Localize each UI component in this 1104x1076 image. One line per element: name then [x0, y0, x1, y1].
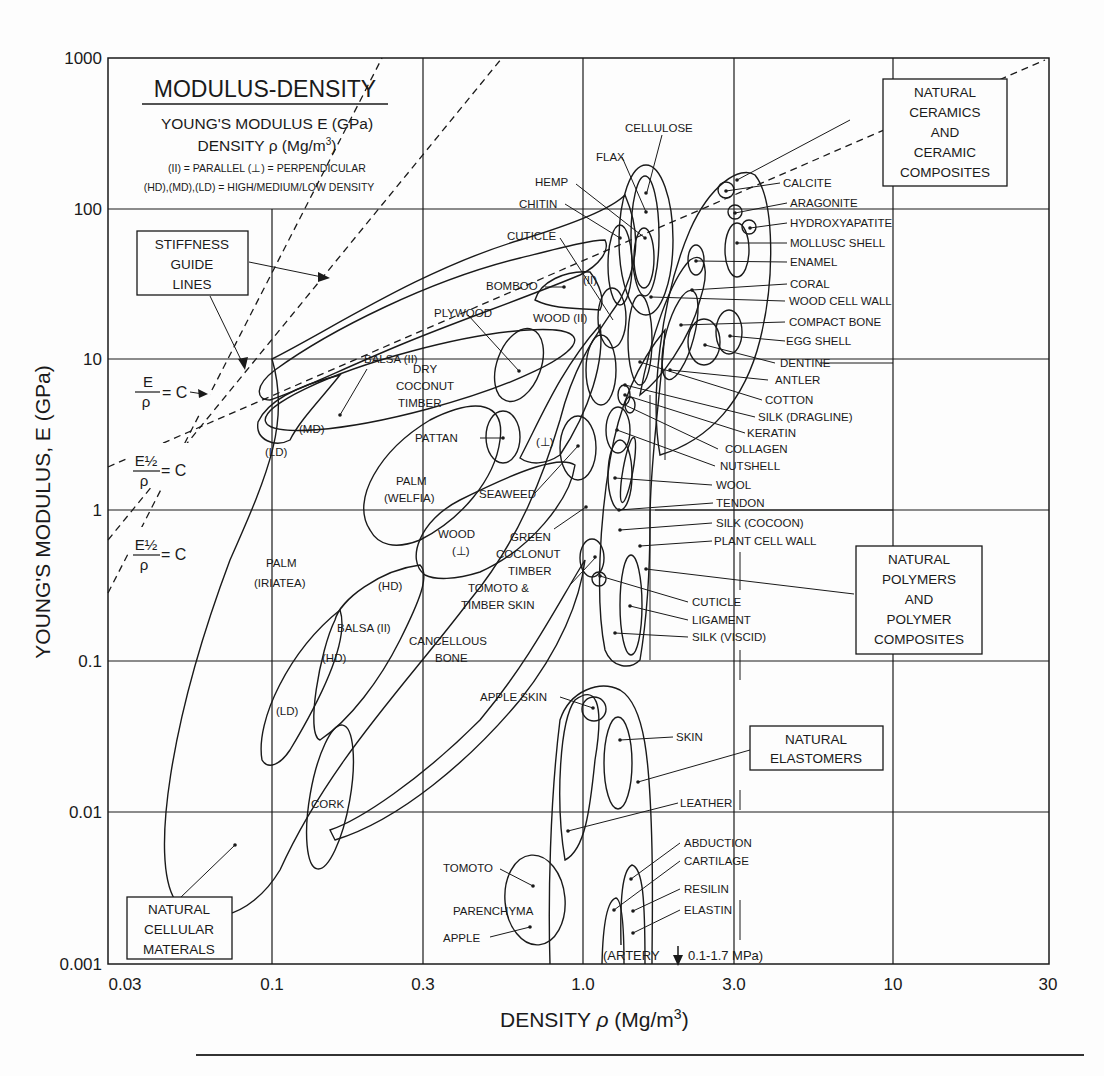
ytick-100: 100	[74, 200, 102, 219]
xtick-3.0: 3.0	[722, 975, 746, 994]
xtick-0.1: 0.1	[260, 975, 284, 994]
label-coral: CORAL	[790, 278, 830, 290]
label-skin: SKIN	[676, 731, 703, 743]
label-dentine: DENTINE	[780, 357, 831, 369]
label-hydroxyapatite: HYDROXYAPATITE	[790, 217, 893, 229]
guide-box-line-2: GUIDE	[171, 257, 214, 272]
label-calcite: CALCITE	[783, 177, 832, 189]
ceramics-line-1: NATURAL	[914, 85, 977, 100]
family-box-polymers: NATURAL POLYMERS AND POLYMER COMPOSITES	[856, 546, 982, 654]
leather-region	[560, 695, 599, 860]
label-ligament: LIGAMENT	[692, 614, 751, 626]
plywood-region	[485, 322, 552, 408]
polymers-line-3: AND	[905, 592, 934, 607]
label-dry: DRY	[413, 363, 437, 375]
label-compact-bone: COMPACT BONE	[789, 316, 882, 328]
eq1-rhs: = C	[162, 384, 187, 401]
label-hd-2: (HD)	[322, 652, 346, 664]
ytick-0.01: 0.01	[69, 803, 102, 822]
label-bone: BONE	[435, 652, 468, 664]
eq3-rhs: = C	[161, 546, 186, 563]
natural-ceramics-envelope	[656, 172, 770, 455]
page-footer-rule	[196, 1054, 1084, 1056]
label-bamboo-parallel: (II)	[583, 274, 597, 286]
cellular-line-3: MATERALS	[143, 942, 215, 957]
subtitle-modulus: YOUNG'S MODULUS E (GPa)	[161, 115, 373, 132]
label-cotton: COTTON	[765, 394, 813, 406]
label-palm-welfia-2: (WELFIA)	[384, 492, 435, 504]
guide-box-line-3: LINES	[172, 277, 211, 292]
cellular-line-2: CELLULAR	[144, 922, 214, 937]
label-antler: ANTLER	[775, 374, 820, 386]
label-silk-dragline: SILK (DRAGLINE)	[758, 411, 853, 423]
ytick-0.1: 0.1	[78, 652, 102, 671]
label-hd-1: (HD)	[378, 580, 402, 592]
ceramics-line-5: COMPOSITES	[900, 165, 990, 180]
seaweed-region	[560, 416, 596, 480]
stiffness-guide-box: STIFFNESS GUIDE LINES	[137, 231, 330, 370]
eq3-numerator: E½	[135, 536, 158, 553]
label-coconut: COCONUT	[396, 380, 454, 392]
label-elastin: ELASTIN	[684, 904, 732, 916]
elastomer-regions	[501, 686, 652, 964]
ceramics-line-2: CERAMICS	[909, 105, 980, 120]
label-apple: APPLE	[443, 932, 480, 944]
wood-cell-wall-region	[628, 295, 652, 385]
label-coclonut: COCLONUT	[496, 548, 561, 560]
ytick-1000: 1000	[64, 49, 102, 68]
material-labels: CELLULOSE FLAX HEMP CHITIN CUTICLE BOMBO…	[254, 122, 893, 966]
label-hemp: HEMP	[535, 176, 569, 188]
label-cellulose: CELLULOSE	[625, 122, 693, 134]
label-ld-low: (LD)	[276, 705, 299, 717]
leader-lines	[180, 120, 893, 940]
eq2-numerator: E½	[135, 452, 158, 469]
label-palm-iriatea-1: PALM	[266, 557, 296, 569]
label-silk-cocoon: SILK (COCOON)	[716, 517, 804, 529]
arrowhead-icon	[318, 272, 330, 282]
label-artery: (ARTERY	[603, 948, 660, 963]
label-cartilage: CARTILAGE	[684, 855, 749, 867]
ceramics-line-4: CERAMIC	[914, 145, 977, 160]
label-wood-perp-2: (⊥)	[452, 545, 470, 557]
xtick-30: 30	[1039, 975, 1058, 994]
subtitle-legend-density: (HD),(MD),(LD) = HIGH/MEDIUM/LOW DENSITY	[144, 181, 375, 193]
label-cuticle: CUTICLE	[507, 230, 557, 242]
label-wood-cell-wall: WOOD CELL WALL	[789, 295, 892, 307]
guide-box-arrow-1	[249, 262, 322, 277]
tendon-region	[617, 437, 638, 504]
label-balsa-hd: BALSA (II)	[337, 622, 391, 634]
tomoto-parenchyma-region	[501, 853, 569, 948]
label-cuticle-soft: CUTICLE	[692, 596, 742, 608]
label-abduction: ABDUCTION	[684, 837, 752, 849]
label-mollusc-shell: MOLLUSC SHELL	[790, 237, 886, 249]
x-axis-title: DENSITY ρ (Mg/m3)	[500, 1006, 689, 1031]
label-artery-value: 0.1-1.7 MPa)	[688, 948, 763, 963]
cork-region	[298, 722, 363, 873]
guide-box-line-1: STIFFNESS	[155, 237, 229, 252]
polymers-line-2: POLYMERS	[882, 572, 956, 587]
xtick-0.3: 0.3	[411, 975, 435, 994]
label-pattan: PATTAN	[415, 432, 458, 444]
label-palm-welfia-1: PALM	[396, 475, 426, 487]
label-ld: (LD)	[265, 446, 288, 458]
skin-region	[604, 717, 632, 809]
label-plant-cell-wall: PLANT CELL WALL	[714, 535, 817, 547]
label-green-timber: TIMBER	[508, 565, 551, 577]
label-green: GREEN	[510, 531, 551, 543]
y-axis-ticks: 1000 100 10 1 0.1 0.01 0.001	[59, 49, 102, 974]
label-chitin: CHITIN	[519, 198, 557, 210]
label-wool: WOOL	[716, 479, 752, 491]
cellular-materials-regions	[164, 195, 635, 917]
label-cork: CORK	[311, 798, 345, 810]
polymers-line-1: NATURAL	[888, 552, 951, 567]
label-md: (MD)	[299, 423, 325, 435]
modulus-density-chart: MODULUS-DENSITY YOUNG'S MODULUS E (GPa) …	[0, 0, 1104, 1076]
label-aragonite: ARAGONITE	[790, 197, 858, 209]
label-leather: LEATHER	[680, 797, 732, 809]
label-nutshell: NUTSHELL	[720, 460, 781, 472]
label-perpendicular: (⊥)	[536, 436, 554, 448]
subtitle-density: DENSITY ρ (Mg/m3)	[198, 136, 337, 154]
polymer-ceramic-regions	[580, 165, 771, 666]
label-collagen: COLLAGEN	[725, 443, 788, 455]
polymers-line-5: COMPOSITES	[874, 632, 964, 647]
